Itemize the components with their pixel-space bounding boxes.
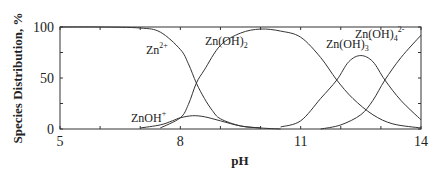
x-tick-label: 5 xyxy=(57,134,64,149)
y-tick-label: 0 xyxy=(47,122,54,137)
y-axis-title: Species Distribution, % xyxy=(10,12,25,143)
x-tick-label: 14 xyxy=(414,134,428,149)
series-label: Zn2+ xyxy=(146,41,168,57)
species-distribution-chart: 581114 050100 Zn2+ZnOH+Zn(OH)2Zn(OH)3-Zn… xyxy=(0,0,443,178)
series-line xyxy=(281,56,421,127)
x-tick-label: 8 xyxy=(177,134,184,149)
y-tick-label: 100 xyxy=(33,20,54,35)
series-labels: Zn2+ZnOH+Zn(OH)2Zn(OH)3-Zn(OH)42- xyxy=(131,25,405,125)
series-label: Zn(OH)42- xyxy=(355,25,405,43)
series-label: ZnOH+ xyxy=(131,109,167,125)
y-tick-label: 50 xyxy=(40,71,54,86)
x-axis-title: pH xyxy=(231,153,248,168)
series-label: Zn(OH)2 xyxy=(205,34,248,50)
series-line xyxy=(160,29,421,128)
x-tick-label: 11 xyxy=(294,134,307,149)
